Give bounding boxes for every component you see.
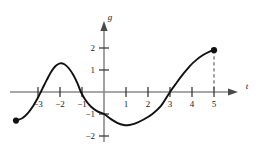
y-tick-label-2: 2: [91, 43, 96, 53]
x-tick-label-2: 2: [146, 99, 151, 109]
function-plot: −3 −2 −1 1 2 3 4 5 2 1 −1 −2 g t: [0, 0, 263, 164]
left-endpoint-dot: [13, 118, 19, 124]
y-tick-label-1: 1: [91, 65, 96, 75]
x-tick-label--2: −2: [55, 99, 65, 109]
y-axis-label: g: [108, 12, 113, 22]
x-tick-label-4: 4: [190, 99, 195, 109]
x-tick-label-1: 1: [124, 99, 129, 109]
y-tick-label--2: −2: [85, 131, 95, 141]
x-tick-label-3: 3: [168, 99, 173, 109]
right-endpoint-dot: [211, 47, 217, 53]
y-axis-arrowhead: [100, 21, 107, 31]
x-axis-arrowhead: [228, 88, 238, 95]
x-tick-label-5: 5: [212, 99, 217, 109]
function-curve: [16, 50, 214, 125]
graph-figure: −3 −2 −1 1 2 3 4 5 2 1 −1 −2 g t: [0, 0, 263, 164]
x-tick-labels: −3 −2 −1 1 2 3 4 5: [33, 99, 217, 109]
axes-layer: [10, 21, 238, 142]
x-axis-label: t: [246, 81, 249, 91]
y-tick-label--1: −1: [85, 109, 95, 119]
